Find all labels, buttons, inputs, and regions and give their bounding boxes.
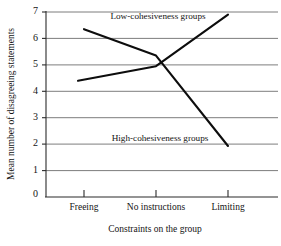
chart-figure: 7 6 5 4 3 2 1 0 Freeing No instructions …: [0, 0, 281, 246]
x-tick-label-limiting: Limiting: [211, 202, 245, 212]
series-line-low-cohesiveness: [84, 29, 228, 146]
x-axis-title: Constraints on the group: [108, 224, 202, 234]
x-tick-label-freeing: Freeing: [69, 202, 98, 212]
x-tick-marks: [84, 190, 228, 197]
y-tick-label-5: 5: [33, 58, 38, 69]
series-annotation-low-cohesiveness: Low-cohesiveness groups: [110, 11, 206, 21]
y-tick-label-7: 7: [33, 5, 38, 16]
axes: [45, 11, 278, 197]
y-tick-label-3: 3: [33, 111, 38, 122]
y-tick-label-2: 2: [33, 137, 38, 148]
series-line-high-cohesiveness: [78, 15, 228, 81]
x-tick-label-no-instructions: No instructions: [127, 202, 186, 212]
y-tick-label-6: 6: [33, 32, 38, 43]
series-annotation-high-cohesiveness: High-cohesiveness groups: [112, 133, 209, 143]
y-tick-label-4: 4: [33, 85, 38, 96]
gridlines: [46, 12, 278, 171]
y-tick-marks: [42, 12, 46, 171]
y-tick-label-0: 0: [33, 188, 38, 199]
y-axis-title: Mean number of disagreeing statements: [6, 28, 16, 180]
line-chart-canvas: 7 6 5 4 3 2 1 0 Freeing No instructions …: [0, 0, 281, 246]
y-tick-label-1: 1: [33, 164, 38, 175]
